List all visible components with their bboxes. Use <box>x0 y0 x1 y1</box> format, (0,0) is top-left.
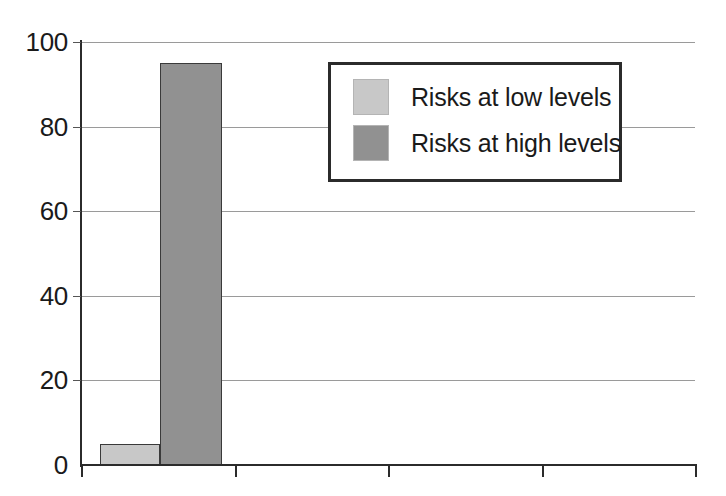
x-tick-2 <box>388 466 390 477</box>
y-axis-label-100: 100 <box>26 29 68 55</box>
legend-swatch-high-icon <box>353 125 389 161</box>
legend-swatch-low-icon <box>353 79 389 115</box>
legend: Risks at low levels Risks at high levels <box>328 62 622 182</box>
bar-risks-at-low-levels <box>100 444 160 465</box>
legend-item-risks-at-low-levels: Risks at low levels <box>353 77 611 117</box>
y-tick-100 <box>73 42 81 43</box>
y-tick-60 <box>73 211 81 212</box>
y-axis-label-80: 80 <box>40 114 68 140</box>
legend-item-risks-at-high-levels: Risks at high levels <box>353 123 621 163</box>
bar-chart: 100 80 60 40 20 0 Risks at low levels Ri… <box>0 0 726 496</box>
y-tick-80 <box>73 127 81 128</box>
legend-label-low: Risks at low levels <box>411 83 611 111</box>
bar-risks-at-high-levels <box>160 63 222 465</box>
y-tick-40 <box>73 296 81 297</box>
y-axis-label-0: 0 <box>54 452 68 478</box>
y-axis-line <box>80 40 82 467</box>
y-axis-label-60: 60 <box>40 198 68 224</box>
x-tick-3 <box>542 466 544 477</box>
y-axis-label-40: 40 <box>40 283 68 309</box>
gridline-100 <box>82 42 695 43</box>
x-tick-0 <box>81 466 83 477</box>
legend-label-high: Risks at high levels <box>411 129 621 157</box>
x-tick-1 <box>235 466 237 477</box>
y-tick-20 <box>73 380 81 381</box>
x-tick-4 <box>695 466 697 477</box>
y-axis-label-20: 20 <box>40 367 68 393</box>
